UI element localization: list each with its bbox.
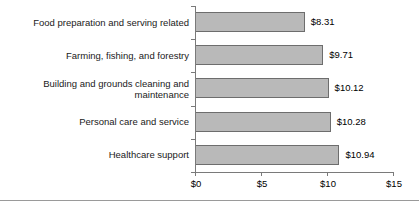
bar-value-label: $10.94 bbox=[345, 146, 374, 164]
x-axis-tick-label: $15 bbox=[386, 178, 402, 189]
x-axis-tick bbox=[393, 172, 394, 176]
x-axis-tick-label: $10 bbox=[320, 178, 336, 189]
bar bbox=[195, 12, 305, 32]
x-axis-tick-label: $0 bbox=[191, 178, 202, 189]
category-label: Healthcare support bbox=[7, 150, 189, 162]
x-axis-tick-label: $5 bbox=[257, 178, 268, 189]
bar-value-label: $10.28 bbox=[337, 113, 366, 131]
x-axis-line bbox=[195, 172, 393, 173]
chart-row: Farming, fishing, and forestry $9.71 bbox=[195, 39, 393, 72]
category-label: Food preparation and serving related bbox=[7, 17, 189, 29]
x-axis-tick bbox=[261, 172, 262, 176]
category-label: Personal care and service bbox=[7, 116, 189, 128]
bar bbox=[195, 112, 331, 132]
plot-area: Food preparation and serving related $8.… bbox=[195, 6, 393, 172]
x-axis-tick bbox=[195, 172, 196, 176]
bar-value-label: $8.31 bbox=[311, 13, 335, 31]
chart-row: Building and grounds cleaning and mainte… bbox=[195, 72, 393, 105]
bar-value-label: $9.71 bbox=[329, 46, 353, 64]
bar bbox=[195, 45, 323, 65]
chart-row: Personal care and service $10.28 bbox=[195, 106, 393, 139]
category-label: Farming, fishing, and forestry bbox=[7, 50, 189, 62]
bar bbox=[195, 78, 329, 98]
chart-row: Healthcare support $10.94 bbox=[195, 139, 393, 172]
x-axis-tick bbox=[327, 172, 328, 176]
bar-chart-figure: Food preparation and serving related $8.… bbox=[0, 0, 419, 207]
y-axis-line bbox=[195, 6, 196, 172]
bar bbox=[195, 145, 339, 165]
bar-value-label: $10.12 bbox=[335, 79, 364, 97]
bottom-divider bbox=[0, 200, 419, 201]
chart-row: Food preparation and serving related $8.… bbox=[195, 6, 393, 39]
category-label: Building and grounds cleaning and mainte… bbox=[7, 77, 189, 100]
